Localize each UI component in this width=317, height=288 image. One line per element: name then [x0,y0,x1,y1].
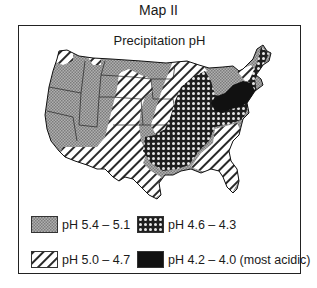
legend-label: pH 4.6 – 4.3 [168,218,236,232]
legend-item-ph-4.2-4.0: pH 4.2 – 4.0 (most acidic) [137,251,310,268]
legend-label: pH 5.4 – 5.1 [62,218,130,232]
legend-swatch-circles-icon [137,216,164,233]
legend-label: pH 4.2 – 4.0 (most acidic) [168,253,310,267]
map-title: Map II [0,2,317,18]
legend-item-ph-4.6-4.3: pH 4.6 – 4.3 [137,216,236,233]
us-precipitation-map [19,26,302,275]
map-frame: Precipitation pH [18,25,301,274]
legend-item-ph-5.0-4.7: pH 5.0 – 4.7 [31,251,130,268]
legend-swatch-black-icon [137,251,164,268]
legend-swatch-hatch-icon [31,251,58,268]
legend-swatch-gray-icon [31,216,58,233]
legend-label: pH 5.0 – 4.7 [62,253,130,267]
legend-item-ph-5.4-5.1: pH 5.4 – 5.1 [31,216,130,233]
